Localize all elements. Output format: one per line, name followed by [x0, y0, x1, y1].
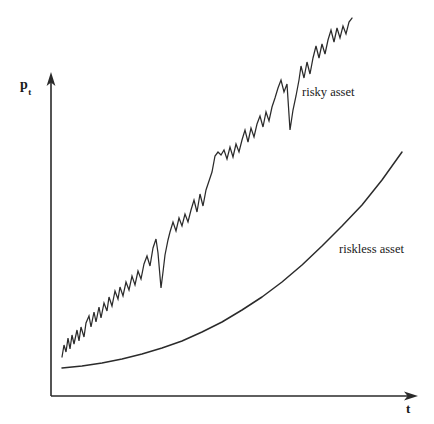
chart-canvas	[0, 0, 434, 424]
y-axis-label: pt	[20, 78, 31, 95]
x-axis-label: t	[406, 402, 410, 415]
y-axis-label-subscript: t	[28, 87, 31, 97]
axes-group	[47, 72, 418, 400]
riskless-asset-series	[62, 152, 402, 368]
y-axis-label-symbol: p	[20, 77, 28, 92]
asset-price-figure: pt t risky asset riskless asset	[0, 0, 434, 424]
risky-asset-series	[62, 18, 352, 357]
risky-asset-annotation: risky asset	[302, 86, 354, 99]
series-group	[62, 18, 402, 368]
riskless-asset-annotation: riskless asset	[339, 243, 404, 256]
